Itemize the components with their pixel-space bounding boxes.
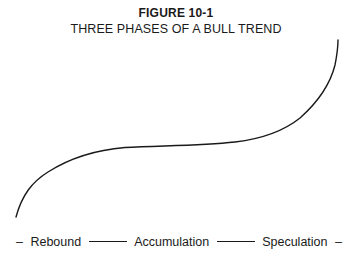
lead-dash: – [16, 235, 23, 249]
phase-rebound: Rebound [30, 235, 81, 249]
phase-speculation: Speculation [262, 235, 327, 249]
phase-labels: – Rebound Accumulation Speculation – [16, 234, 342, 249]
separator-line [217, 241, 255, 242]
phase-accumulation: Accumulation [134, 235, 209, 249]
tail-dash: – [335, 235, 342, 249]
separator-line [89, 241, 127, 242]
bull-trend-curve [0, 0, 352, 261]
